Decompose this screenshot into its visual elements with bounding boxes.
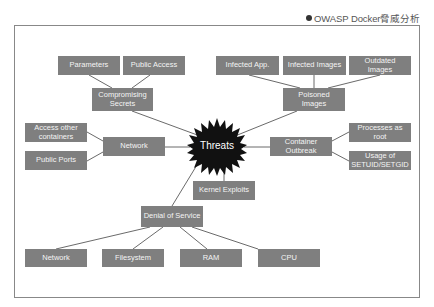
node-dos-filesystem: Filesystem	[102, 249, 164, 267]
node-public-access: Public Access	[123, 56, 185, 75]
node-processes-as-root: Processes as root	[349, 123, 411, 142]
node-public-ports: Public Ports	[25, 151, 87, 170]
edge-network-access	[87, 132, 103, 141]
edge-secrets-public-access	[132, 75, 150, 88]
threats-label: Threats	[187, 140, 247, 151]
node-access-other-containers: Access other containers	[25, 123, 87, 142]
edge-poisoned-app	[249, 75, 300, 88]
node-infected-app: Infected App.	[216, 56, 279, 75]
node-dos-network: Network	[25, 249, 87, 267]
edge-dos-cpu	[192, 227, 258, 249]
node-container-outbreak: Container Outbreak	[270, 137, 332, 156]
edge-poisoned-outdated	[328, 75, 380, 88]
node-outdated-images: Outdated Images	[349, 56, 411, 75]
edge-network-ports	[87, 152, 103, 161]
node-parameters: Parameters	[58, 56, 120, 75]
edge-outbreak-setuid	[332, 152, 349, 161]
node-compromising-secrets: Compromising Secrets	[92, 88, 153, 111]
node-network: Network	[103, 137, 165, 156]
node-poisoned-images: Poisoned Images	[283, 88, 345, 111]
node-dos-ram: RAM	[180, 249, 242, 267]
edge-dos-network	[56, 227, 150, 249]
edge-secrets-parameters	[89, 75, 112, 88]
node-infected-images: Infected Images	[283, 56, 346, 75]
edge-outbreak-root	[332, 132, 349, 141]
node-dos-cpu: CPU	[258, 249, 320, 267]
node-kernel-exploits: Kernel Exploits	[193, 181, 255, 200]
node-denial-of-service: Denial of Service	[141, 206, 203, 227]
node-usage-setuid-setgid: Usage of SETUID/SETGID	[349, 151, 411, 170]
